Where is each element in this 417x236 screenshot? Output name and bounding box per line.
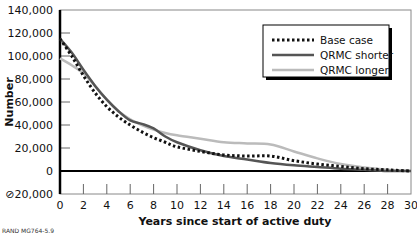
legend: Base caseQRMC shorterQRMC longer xyxy=(263,25,394,80)
x-axis-ticks: 024681012141618202224262830 xyxy=(57,184,417,212)
y-axis-title: Number xyxy=(3,77,16,127)
x-tick-label: 8 xyxy=(150,199,157,212)
source-note: RAND MG764-5.9 xyxy=(2,227,54,234)
x-tick-label: 6 xyxy=(127,199,134,212)
legend-label: Base case xyxy=(320,34,373,46)
line-chart: ⊘20,000020,00040,00060,00080,000100,0001… xyxy=(0,0,417,236)
x-tick-label: 18 xyxy=(264,199,278,212)
x-axis-title: Years since start of active duty xyxy=(137,215,331,228)
x-tick-label: 24 xyxy=(334,199,348,212)
y-tick-label: 100,000 xyxy=(8,50,54,63)
y-tick-label: ⊘20,000 xyxy=(5,188,53,201)
y-tick-label: 20,000 xyxy=(15,142,54,155)
y-tick-label: 120,000 xyxy=(8,27,54,40)
x-tick-label: 12 xyxy=(193,199,207,212)
x-tick-label: 30 xyxy=(404,199,417,212)
x-tick-label: 20 xyxy=(287,199,301,212)
x-tick-label: 16 xyxy=(240,199,254,212)
x-tick-label: 26 xyxy=(357,199,371,212)
x-tick-label: 4 xyxy=(103,199,110,212)
y-tick-label: 0 xyxy=(46,165,53,178)
x-tick-label: 0 xyxy=(57,199,64,212)
x-tick-label: 10 xyxy=(170,199,184,212)
y-tick-label: 140,000 xyxy=(8,4,54,17)
x-tick-label: 14 xyxy=(217,199,231,212)
legend-label: QRMC longer xyxy=(320,64,389,76)
legend-label: QRMC shorter xyxy=(320,49,394,61)
y-tick-label: 60,000 xyxy=(15,96,54,109)
x-tick-label: 28 xyxy=(381,199,395,212)
y-tick-label: 40,000 xyxy=(15,119,54,132)
x-tick-label: 2 xyxy=(80,199,87,212)
y-tick-label: 80,000 xyxy=(15,73,54,86)
x-tick-label: 22 xyxy=(310,199,324,212)
